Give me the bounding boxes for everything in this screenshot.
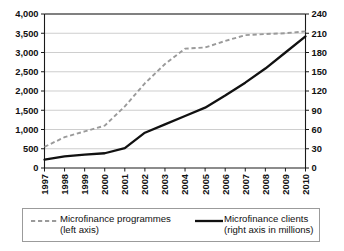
left-axis-tick-label: 1,500 xyxy=(15,106,38,116)
left-axis-tick-label: 4,000 xyxy=(15,9,38,19)
legend-item-microfinance-programmes: Microfinance programmes (left axis) xyxy=(30,213,190,236)
left-axis-tick-label: 3,000 xyxy=(15,48,38,58)
left-axis-tick-label: 2,500 xyxy=(15,67,38,77)
x-axis-tick-label: 2000 xyxy=(100,174,110,195)
x-axis-tick-label: 2007 xyxy=(241,174,251,195)
x-axis-tick-label: 2010 xyxy=(301,174,311,195)
legend-label-clients: Microfinance clients (right axis in mill… xyxy=(224,213,314,236)
solid-line-swatch xyxy=(194,215,224,227)
chart-plot-container: 05001,0001,5002,0002,5003,0003,5004,0000… xyxy=(0,0,344,200)
left-axis-tick-label: 500 xyxy=(23,144,39,154)
right-axis-tick-label: 60 xyxy=(312,125,322,135)
right-axis-tick-label: 30 xyxy=(312,144,322,154)
legend-item-microfinance-clients: Microfinance clients (right axis in mill… xyxy=(194,213,314,236)
right-axis-tick-label: 240 xyxy=(312,9,328,19)
x-axis-tick-label: 1998 xyxy=(60,174,70,195)
left-axis-tick-label: 0 xyxy=(33,163,38,173)
x-axis-tick-label: 2006 xyxy=(221,174,231,195)
legend-label-clients-line2: (right axis in millions) xyxy=(224,224,314,235)
x-axis-tick-label: 2005 xyxy=(201,174,211,195)
series-line-clients xyxy=(45,36,306,159)
legend-label-programmes-line1: Microfinance programmes xyxy=(60,213,171,224)
x-axis-tick-label: 2004 xyxy=(180,173,190,195)
right-axis-tick-label: 120 xyxy=(312,86,328,96)
right-axis-tick-label: 210 xyxy=(312,29,328,39)
left-axis-tick-label: 1,000 xyxy=(15,125,38,135)
x-axis-tick-label: 2003 xyxy=(160,174,170,195)
x-axis-tick-label: 1997 xyxy=(40,174,50,195)
x-axis-tick-label: 2002 xyxy=(140,174,150,195)
left-axis-tick-label: 3,500 xyxy=(15,29,38,39)
legend-label-clients-line1: Microfinance clients xyxy=(224,213,308,224)
chart-legend: Microfinance programmes (left axis) Micr… xyxy=(22,208,320,242)
right-axis-tick-label: 0 xyxy=(312,163,317,173)
left-axis-tick-label: 2,000 xyxy=(15,86,38,96)
right-axis-tick-label: 180 xyxy=(312,48,328,58)
x-axis-tick-label: 1999 xyxy=(80,174,90,195)
x-axis-tick-label: 2001 xyxy=(120,174,130,195)
x-axis-tick-label: 2009 xyxy=(281,174,291,195)
right-axis-tick-label: 150 xyxy=(312,67,328,77)
legend-label-programmes: Microfinance programmes (left axis) xyxy=(60,213,171,236)
legend-label-programmes-line2: (left axis) xyxy=(60,224,171,235)
line-chart: 05001,0001,5002,0002,5003,0003,5004,0000… xyxy=(0,0,344,200)
dashed-line-swatch xyxy=(30,215,60,227)
right-axis-tick-label: 90 xyxy=(312,106,322,116)
chart-figure: 05001,0001,5002,0002,5003,0003,5004,0000… xyxy=(0,0,344,251)
x-axis-tick-label: 2008 xyxy=(261,174,271,195)
